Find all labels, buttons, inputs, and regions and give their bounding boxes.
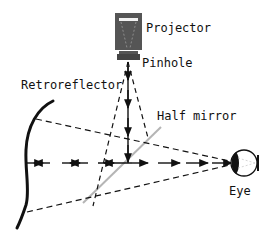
- eye-icon: [231, 150, 258, 176]
- half-mirror: [83, 127, 161, 203]
- half-mirror-label: Half mirror: [157, 110, 236, 122]
- retroreflective-projection-diagram: Projector Pinhole Retroreflector Half mi…: [0, 0, 273, 240]
- projector-icon: [115, 13, 142, 50]
- projector-label: Projector: [146, 22, 211, 34]
- pinhole-icon: [117, 51, 140, 60]
- retroreflector-curve: [17, 101, 53, 228]
- eye-label: Eye: [229, 185, 251, 197]
- pinhole-label: Pinhole: [142, 57, 193, 69]
- retroreflector-label: Retroreflector: [21, 79, 122, 91]
- viewing-cone: [27, 119, 234, 212]
